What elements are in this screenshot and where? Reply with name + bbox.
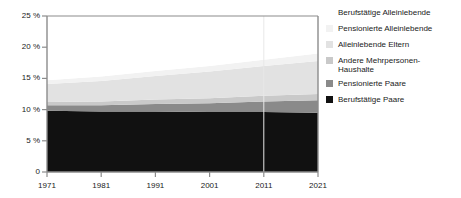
x-axis-label-2001: 2001 [201,182,219,190]
x-axis-label-1971: 1971 [38,182,56,190]
legend-swatch-icon [326,57,333,64]
legend-item[interactable]: Pensionierte Paare [326,79,461,90]
legend-item[interactable]: Berufstätige Alleinlebende [326,8,461,19]
x-axis-label-2021: 2021 [309,182,327,190]
x-axis-label-1981: 1981 [92,182,110,190]
legend-swatch-icon [326,25,333,32]
legend-item[interactable]: Alleinlebende Eltern [326,40,461,51]
legend-swatch-icon [326,41,333,48]
legend-item-label: Pensionierte Alleinlebende [338,24,432,33]
legend-item-label: Andere Mehrpersonen- Haushalte [338,56,420,74]
x-axis-label-1991: 1991 [146,182,164,190]
x-axis: 197119811991200120112021 [0,0,330,198]
legend-item-label: Pensionierte Paare [338,79,406,88]
legend-item-label: Berufstätige Alleinlebende [338,8,431,17]
x-axis-label-2011: 2011 [255,182,272,190]
legend-item-label: Alleinlebende Eltern [338,40,409,49]
legend-item[interactable]: Berufstätige Paare [326,95,461,106]
legend-item-label: Berufstätige Paare [338,95,404,104]
legend-item[interactable]: Andere Mehrpersonen- Haushalte [326,56,461,74]
legend-swatch-icon [326,9,333,16]
chart-legend: Berufstätige AlleinlebendePensionierte A… [326,8,461,111]
legend-item[interactable]: Pensionierte Alleinlebende [326,24,461,35]
chart-root: 25 %20 %15 %10 %5 %0 1971198119912001201… [0,0,461,198]
legend-swatch-icon [326,96,333,103]
legend-swatch-icon [326,80,333,87]
